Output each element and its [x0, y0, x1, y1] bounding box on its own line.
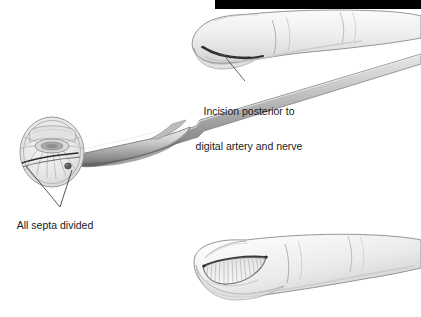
incision-label: Incision posterior to digital artery and… [183, 83, 315, 175]
septa-label-line1: All septa divided [4, 220, 106, 232]
septa-label: All septa divided [4, 197, 106, 255]
medical-figure: Incision posterior to digital artery and… [0, 0, 421, 317]
digital-artery-nerve-bundle [65, 163, 72, 169]
incision-label-line2: digital artery and nerve [183, 141, 315, 153]
bottom-finger-group [194, 234, 421, 300]
incision-label-line1: Incision posterior to [183, 106, 315, 118]
digital-artery-lumen [66, 164, 68, 166]
bone-marrow-core [47, 144, 58, 148]
wound-distal-end-mark [265, 256, 268, 259]
wound-proximal-end-mark [203, 265, 206, 268]
